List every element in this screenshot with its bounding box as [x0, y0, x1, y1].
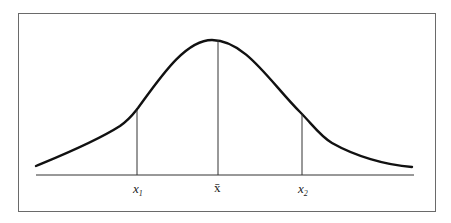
normal-curve — [36, 40, 412, 167]
bell-curve-diagram: x1 x̄ x2 — [0, 0, 451, 223]
mean-label: x̄ — [214, 180, 221, 195]
x2-label: x2 — [297, 181, 308, 198]
x1-label: x1 — [132, 181, 143, 198]
